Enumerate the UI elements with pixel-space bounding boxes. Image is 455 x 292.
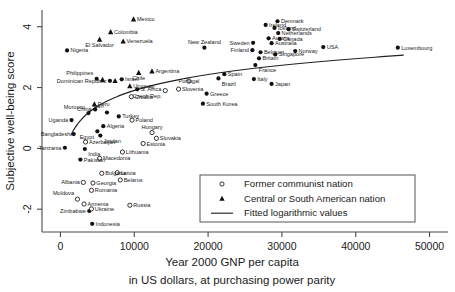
y-tick-label: 2 (21, 84, 33, 90)
marker-Hungary (150, 130, 154, 134)
legend-label: Central or South American nation (244, 193, 385, 204)
point-label: Dominican Republic (57, 78, 107, 84)
point-label: Georgia (96, 180, 117, 186)
point-label: Poland (135, 117, 152, 123)
marker-Central or South American nation (112, 78, 117, 83)
marker-Moldova (75, 197, 79, 201)
point-label: Japan (275, 81, 290, 87)
point-label: New Zealand (188, 39, 221, 45)
point-label: Greece (210, 91, 228, 97)
marker-Bangladesh (72, 132, 76, 136)
marker-Georgia (91, 181, 95, 185)
point-label: Brazil (222, 81, 236, 87)
marker-South Korea (201, 102, 205, 106)
marker-Ukraine (89, 207, 93, 211)
point-label: Denmark (281, 18, 304, 24)
marker-Uruguay (127, 83, 132, 88)
point-label: Hungary (141, 124, 162, 130)
point-label: Albania (61, 179, 81, 185)
x-tick-label: 50000 (415, 240, 444, 252)
x-axis-title: Year 2000 GNP per capita (165, 256, 299, 268)
y-tick-label: 0 (21, 145, 33, 151)
marker-Russia (128, 203, 132, 207)
marker-Egypt (95, 129, 99, 133)
x-tick-label: 10000 (120, 240, 149, 252)
point-label: Latvia (121, 170, 137, 176)
point-label: Norway (299, 48, 318, 54)
marker-USA (321, 45, 325, 49)
point-label: Macedonia (103, 155, 131, 161)
marker-Israel (120, 77, 124, 81)
point-label: Ukraine (95, 206, 114, 212)
marker-Colombia (108, 29, 113, 34)
marker-Italy (252, 77, 256, 81)
x-tick-label: 20000 (193, 240, 222, 252)
point-label: Uganda (49, 117, 69, 123)
marker-Armenia (82, 202, 86, 206)
point-label: Mexico (137, 16, 155, 22)
marker-Luxembourg (396, 46, 400, 50)
marker-Jordan (98, 133, 102, 137)
point-label: Argentina (155, 68, 180, 74)
point-label: Algeria (107, 123, 125, 129)
point-label: South Korea (206, 101, 238, 107)
chart-legend: Former communist nationCentral or South … (200, 175, 415, 222)
point-label: Russia (133, 202, 151, 208)
point-label: USA (327, 44, 339, 50)
marker-Bulgaria (100, 171, 104, 175)
y-tick-label: 4 (21, 24, 33, 30)
marker-Nigeria (65, 48, 69, 52)
marker-Mexico (131, 16, 136, 21)
marker-Belarus (118, 178, 122, 182)
point-label: Sweden (230, 40, 250, 46)
point-label: Chile (132, 75, 145, 81)
marker-Romania (89, 188, 93, 192)
marker-Ireland (264, 23, 268, 27)
marker-Algeria (101, 124, 105, 128)
point-label: Moldova (53, 190, 75, 196)
legend-label: Fitted logarithmic values (244, 207, 348, 218)
chart-figure: 01000020000300004000050000420-2 NigeriaN… (0, 0, 455, 292)
marker-Venezuela (121, 38, 126, 43)
marker-India (83, 147, 87, 151)
legend-label: Former communist nation (244, 178, 353, 189)
point-label: Estonia (147, 141, 167, 147)
x-tick-label: 30000 (267, 240, 296, 252)
point-label: Indonesia (96, 221, 121, 227)
point-label: France (259, 67, 276, 73)
marker-Brazil (216, 76, 220, 80)
point-label: Uruguay (133, 83, 154, 89)
marker-Argentina (149, 68, 154, 73)
y-tick-label: -2 (21, 204, 33, 213)
y-axis-title: Subjective well-being score (4, 51, 16, 190)
point-label: Romania (95, 187, 118, 193)
point-label: Venezuela (127, 38, 154, 44)
point-label: Peru (98, 101, 110, 107)
marker-Tanzania (63, 146, 67, 150)
x-tick-label: 0 (58, 240, 64, 252)
point-label: Slovenia (182, 86, 204, 92)
point-label: Philippines (66, 70, 93, 76)
marker-New Zealand (202, 46, 206, 50)
marker-Pakistan (78, 158, 82, 162)
marker-Indonesia (90, 222, 94, 226)
point-label: Italy (257, 76, 267, 82)
point-label: Tanzania (39, 145, 62, 151)
marker-Albania (81, 180, 85, 184)
point-label: El Salvador (85, 42, 114, 48)
marker-Dominican Republic (108, 79, 112, 83)
marker-Sweden (251, 41, 255, 45)
marker-Azerbaijan (83, 140, 87, 144)
marker-Britain (257, 56, 261, 60)
point-label: Britain (262, 55, 278, 61)
marker-Australia (269, 41, 273, 45)
marker-Czech Rep. (163, 88, 167, 92)
point-label: Belarus (124, 177, 143, 183)
point-label: Nigeria (70, 47, 89, 53)
marker-Spain (222, 72, 226, 76)
x-tick-label: 40000 (341, 240, 370, 252)
marker-Finland (250, 48, 254, 52)
marker-Greece (205, 92, 209, 96)
marker-Austria (267, 36, 271, 40)
legend-open-circle-icon (220, 182, 224, 186)
